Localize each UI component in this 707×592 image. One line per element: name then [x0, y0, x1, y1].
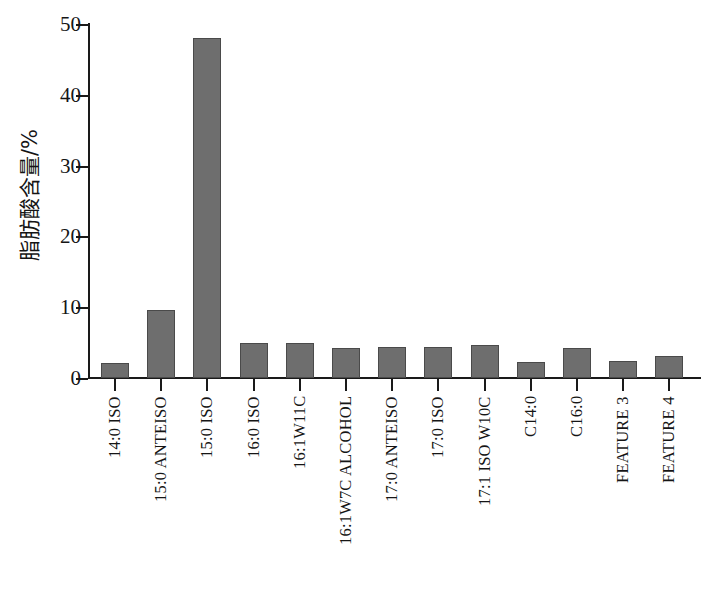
- x-tick-mark: [114, 379, 116, 391]
- y-tick-label: 0: [71, 368, 82, 389]
- bar: [424, 347, 452, 378]
- x-tick-mark: [160, 379, 162, 391]
- x-tick-mark: [484, 379, 486, 391]
- bar: [101, 363, 129, 378]
- bar: [332, 348, 360, 378]
- x-tick-mark: [622, 379, 624, 391]
- bar: [655, 356, 683, 378]
- x-tick-label-text: 14:0 ISO: [107, 396, 124, 458]
- x-tick-mark: [253, 379, 255, 391]
- x-tick-mark: [668, 379, 670, 391]
- y-tick-label: 30: [60, 155, 81, 176]
- x-tick-mark: [299, 379, 301, 391]
- x-tick-label-text: FEATURE 3: [615, 396, 632, 483]
- y-axis-title-text: 脂肪酸含量/%: [13, 129, 43, 261]
- plot-area: 01020304050: [88, 24, 700, 378]
- bar: [378, 347, 406, 378]
- x-tick-label-text: FEATURE 4: [661, 396, 678, 483]
- y-tick-label: 10: [60, 297, 81, 318]
- x-tick-mark: [345, 379, 347, 391]
- bar: [286, 343, 314, 378]
- x-tick-label-text: 16:0 ISO: [246, 396, 263, 458]
- x-tick-label-text: 17:0 ANTEISO: [384, 396, 401, 502]
- y-tick-label: 40: [60, 84, 81, 105]
- x-tick-mark: [391, 379, 393, 391]
- fatty-acid-bar-chart: 脂肪酸含量/% 01020304050 14:0 ISO15:0 ANTEISO…: [0, 0, 707, 592]
- bar: [609, 361, 637, 378]
- y-axis-title: 脂肪酸含量/%: [8, 0, 48, 390]
- x-tick-label-text: 15:0 ANTEISO: [153, 396, 170, 502]
- bar: [471, 345, 499, 378]
- x-tick-mark: [437, 379, 439, 391]
- bar: [193, 38, 221, 378]
- bar: [147, 310, 175, 378]
- bar: [240, 343, 268, 378]
- y-tick-label: 50: [60, 14, 81, 35]
- x-tick-label-text: 17:1 ISO W10C: [477, 396, 494, 506]
- x-tick-label-text: 15:0 ISO: [199, 396, 216, 458]
- x-tick-mark: [530, 379, 532, 391]
- y-tick-label: 20: [60, 226, 81, 247]
- x-tick-label-text: 16:1W11C: [292, 396, 309, 469]
- bar: [517, 362, 545, 378]
- x-tick-mark: [206, 379, 208, 391]
- x-tick-mark: [576, 379, 578, 391]
- x-tick-label-text: C16:0: [569, 396, 586, 437]
- x-tick-label-text: 17:0 ISO: [430, 396, 447, 458]
- bar: [563, 348, 591, 378]
- x-tick-label-text: 16:1W7C ALCOHOL: [338, 396, 355, 545]
- x-tick-label-text: C14:0: [523, 396, 540, 437]
